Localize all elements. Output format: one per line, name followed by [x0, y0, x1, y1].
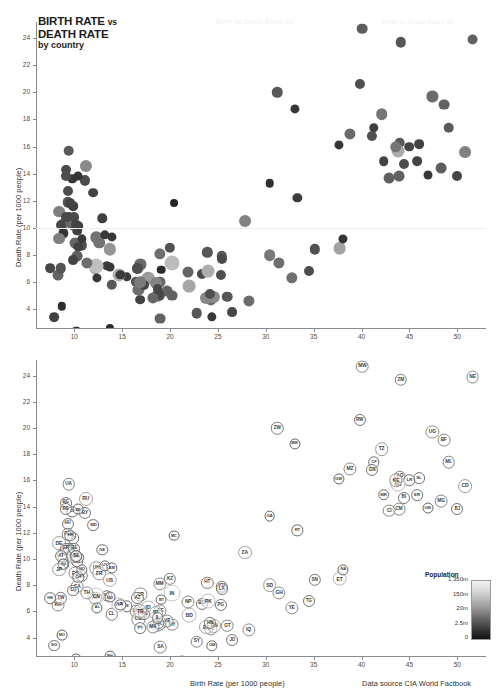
country-code-label: NP	[185, 600, 192, 605]
data-bubble	[202, 265, 215, 278]
country-bubble-md[interactable]: MD	[88, 519, 100, 531]
country-bubble-am[interactable]: AM	[106, 563, 117, 574]
country-bubble-pk[interactable]: PK	[201, 594, 216, 609]
country-code-label: SG	[51, 643, 57, 647]
country-bubble-us[interactable]: US	[103, 573, 117, 587]
country-bubble-jp[interactable]: JP	[52, 563, 66, 577]
country-bubble-al[interactable]: AL	[92, 602, 103, 613]
legend-tick-label: 0	[429, 634, 468, 640]
country-bubble-py[interactable]: PY	[134, 623, 146, 635]
country-code-label: MR	[380, 493, 386, 497]
country-bubble-tr[interactable]: TR	[133, 605, 147, 619]
country-code-label: NO	[79, 567, 85, 571]
country-code-label: BJ	[454, 507, 460, 512]
country-bubble-sy[interactable]: SY	[191, 635, 204, 648]
y-axis-tick	[33, 92, 36, 93]
country-bubble-la[interactable]: LA	[216, 583, 228, 595]
country-bubble-cu[interactable]: CU	[67, 585, 79, 597]
data-bubble	[334, 141, 343, 150]
country-bubble-rt[interactable]: RT	[292, 525, 303, 536]
data-bubble	[97, 214, 106, 223]
country-bubble-bd[interactable]: BD	[182, 608, 197, 623]
country-bubble-gn[interactable]: GN	[366, 464, 378, 476]
country-code-label: CM	[395, 507, 402, 512]
country-bubble-bj[interactable]: BJ	[451, 503, 463, 515]
country-code-label: SD	[266, 583, 273, 588]
x-axis-tick-label: 50	[447, 333, 467, 340]
country-bubble-ge[interactable]: GE	[96, 544, 107, 555]
country-code-label: ER	[414, 493, 420, 497]
country-code-label: HN	[207, 621, 213, 626]
data-bubble	[89, 188, 99, 198]
country-bubble-gm[interactable]: GM	[422, 503, 433, 514]
y-axis-tick	[33, 201, 36, 202]
country-bubble-mu[interactable]: MU	[104, 592, 115, 603]
y-axis-tick-label: 16	[12, 476, 30, 483]
y-axis-tick	[33, 402, 36, 403]
country-bubble-mo[interactable]: MO	[56, 630, 67, 641]
country-bubble-gt[interactable]: GT	[221, 620, 234, 633]
country-bubble-za[interactable]: ZA	[238, 546, 252, 560]
data-source-note: Data source CIA World Factbook	[362, 679, 471, 688]
y-axis-tick-label: 14	[12, 170, 30, 177]
data-bubble	[339, 234, 348, 243]
y-axis-tick-label: 18	[12, 450, 30, 457]
country-bubble-sn[interactable]: SN	[308, 574, 320, 586]
reference-gridline	[36, 228, 486, 229]
country-bubble-zw[interactable]: ZW	[271, 422, 283, 434]
country-bubble-ye[interactable]: YE	[285, 601, 298, 614]
data-bubble	[183, 267, 194, 278]
legend-tick-label: 1,350m	[429, 576, 468, 582]
country-bubble-ml[interactable]: ML	[442, 456, 455, 469]
country-bubble-jo[interactable]: JO	[226, 634, 238, 646]
country-bubble-cd[interactable]: CD	[458, 479, 472, 493]
country-bubble-np[interactable]: NP	[182, 596, 195, 609]
country-bubble-pg[interactable]: PG	[215, 599, 227, 611]
country-bubble-ci[interactable]: CI	[383, 504, 396, 517]
country-bubble-hk[interactable]: HK	[44, 592, 56, 604]
country-bubble-ne[interactable]: NE	[466, 371, 479, 384]
country-bubble-mg[interactable]: MG	[435, 495, 448, 508]
country-bubble-mw[interactable]: MW	[356, 360, 369, 373]
country-code-label: CU	[70, 588, 76, 592]
country-bubble-om[interactable]: OM	[207, 640, 218, 651]
x-axis-tick	[218, 657, 219, 660]
country-bubble-ga[interactable]: GA	[264, 510, 275, 521]
country-bubble-hr[interactable]: HR	[65, 530, 77, 542]
country-bubble-er[interactable]: ER	[411, 489, 423, 501]
country-bubble-rw[interactable]: RW	[354, 414, 366, 426]
y-axis-tick	[33, 611, 36, 612]
country-bubble-gh[interactable]: GH	[273, 587, 286, 600]
country-bubble-ht[interactable]: HT	[201, 576, 213, 588]
country-bubble-bt[interactable]: BT	[156, 594, 167, 605]
y-axis-tick	[33, 255, 36, 256]
country-bubble-bf[interactable]: BF	[437, 433, 450, 446]
country-bubble-gw[interactable]: GW	[333, 474, 344, 485]
y-axis-tick	[33, 585, 36, 586]
country-bubble-il[interactable]: IL	[152, 612, 164, 624]
country-bubble-tg[interactable]: TG	[303, 595, 315, 607]
country-bubble-ua[interactable]: UA	[62, 478, 75, 491]
country-bubble-mc[interactable]: MC	[168, 530, 179, 541]
country-bubble-mr[interactable]: MR	[378, 489, 390, 501]
data-bubble	[147, 293, 158, 304]
y-axis-tick	[33, 65, 36, 66]
data-bubble	[355, 79, 365, 89]
country-code-label: AM	[109, 566, 115, 570]
country-bubble-bw[interactable]: BW	[289, 438, 300, 449]
country-bubble-se[interactable]: SE	[70, 551, 82, 563]
country-bubble-sg[interactable]: SG	[48, 640, 60, 652]
country-bubble-zm[interactable]: ZM	[395, 373, 407, 385]
country-bubble-tw[interactable]: TW	[55, 592, 67, 604]
country-bubble-sa[interactable]: SA	[154, 640, 167, 653]
country-bubble-ee[interactable]: EE	[73, 504, 84, 515]
country-code-label: ZW	[274, 426, 281, 431]
country-bubble-tz[interactable]: TZ	[375, 442, 389, 456]
country-bubble-bi[interactable]: BI	[398, 492, 410, 504]
data-bubble	[396, 37, 406, 47]
country-bubble-na[interactable]: NA	[338, 564, 349, 575]
country-code-label: GH	[276, 591, 283, 596]
country-bubble-mz[interactable]: MZ	[343, 462, 356, 475]
data-bubble	[132, 263, 142, 273]
country-bubble-iq[interactable]: IQ	[242, 623, 255, 636]
